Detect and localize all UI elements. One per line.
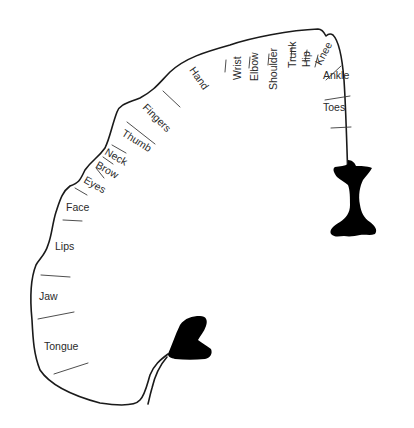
label-jaw: Jaw (39, 290, 58, 302)
lower-middle-blob-shape (168, 316, 212, 360)
label-hand: Hand (187, 64, 211, 92)
upper-right-blob-shape (330, 160, 376, 237)
label-toes: Toes (323, 101, 345, 113)
label-shoulder: Shoulder (267, 47, 279, 90)
label-elbow: Elbow (248, 52, 260, 81)
label-tongue: Tongue (44, 340, 79, 352)
label-lips: Lips (55, 240, 74, 252)
label-thumb: Thumb (120, 127, 154, 155)
label-eyes: Eyes (82, 173, 108, 195)
label-wrist: Wrist (231, 56, 243, 80)
label-knee: Knee (312, 40, 334, 67)
motor-homunculus-diagram: Toes Ankle Knee Hip Trunk Shoulder Elbow… (0, 0, 414, 428)
label-trunk: Trunk (286, 41, 298, 68)
label-hip: Hip (300, 51, 312, 67)
label-ankle: Ankle (323, 69, 349, 81)
label-fingers: Fingers (141, 101, 174, 134)
label-face: Face (66, 201, 90, 213)
